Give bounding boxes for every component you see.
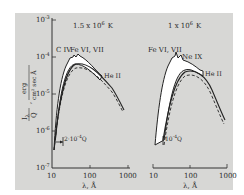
svg-text:erg: erg xyxy=(20,83,28,94)
right-label-heii: He II xyxy=(205,70,222,78)
left-title: 1.5 x 106K xyxy=(73,20,114,30)
right-chart: 10 100 1000 λ, Å 1 x 106K Fe VI, VII Ne … xyxy=(148,20,237,190)
right-scale-note: 10-4Q xyxy=(165,134,182,142)
svg-text:,: , xyxy=(25,102,33,104)
left-ytick-1e-3: 10-3 xyxy=(36,14,50,24)
left-label-fe: Fe VI, VII xyxy=(70,46,104,54)
left-chart: 10-3 10-4 10-5 10-6 10-7 10 100 1000 λ, … xyxy=(36,14,137,190)
right-xtick-10: 10 xyxy=(149,172,158,180)
right-envelope-band xyxy=(155,52,203,145)
right-label-fe: Fe VI, VII xyxy=(148,46,182,54)
spectra-figure: 10-3 10-4 10-5 10-6 10-7 10 100 1000 λ, … xyxy=(0,0,244,195)
svg-text:Q: Q xyxy=(30,112,38,118)
left-ytick-1e-4: 10-4 xyxy=(36,51,50,61)
left-xtick-1000: 1000 xyxy=(119,172,137,180)
left-xtick-100: 100 xyxy=(83,172,96,180)
right-title: 1 x 106K xyxy=(168,20,202,30)
right-xlabel: λ, Å xyxy=(183,181,198,190)
left-xtick-10: 10 xyxy=(47,172,56,180)
right-xtick-1000: 1000 xyxy=(219,172,237,180)
left-ytick-1e-5: 10-5 xyxy=(36,88,50,98)
left-label-heii: He II xyxy=(104,72,121,80)
left-ytick-1e-6: 10-6 xyxy=(36,125,50,135)
y-axis-label: Iλ Q , erg cm² sec Å xyxy=(20,65,38,121)
left-scale-note: 2·10-4Q xyxy=(64,134,87,142)
left-ytick-1e-7: 10-7 xyxy=(36,162,50,172)
left-xlabel: λ, Å xyxy=(82,181,97,190)
right-label-neix: Ne IX xyxy=(182,53,202,61)
svg-text:cm² sec Å: cm² sec Å xyxy=(30,70,37,100)
svg-text:Iλ: Iλ xyxy=(21,113,30,120)
right-xtick-100: 100 xyxy=(184,172,197,180)
